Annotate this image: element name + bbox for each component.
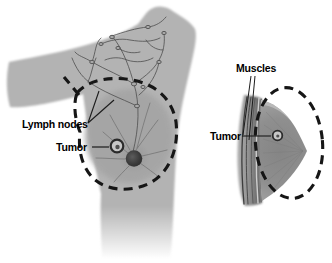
tumor-label-side: Tumor [210,130,241,142]
front-view-panel [7,6,196,258]
nipple [126,150,143,167]
tumor-marker-side [273,131,283,141]
figure-canvas: Lymph nodes Tumor [0,0,332,263]
tumor-label-front: Tumor [56,141,87,153]
medical-figure: Lymph nodes Tumor [0,0,332,263]
side-view-panel [237,85,327,206]
muscles-label: Muscles [236,62,276,74]
lymph-nodes-label: Lymph nodes [22,118,88,130]
breast-side-profile [260,100,307,201]
tumor-marker-front [111,140,124,153]
